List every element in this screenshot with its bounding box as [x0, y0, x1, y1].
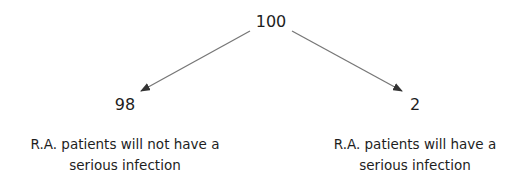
left-desc-line2: serious infection	[25, 155, 225, 176]
left-node-description: R.A. patients will not have a serious in…	[25, 134, 225, 176]
left-arrow	[141, 31, 250, 91]
left-desc-line1: R.A. patients will not have a	[25, 134, 225, 155]
right-node-value: 2	[395, 95, 435, 114]
right-desc-line2: serious infection	[315, 155, 515, 176]
right-arrow	[292, 31, 402, 91]
left-node-value: 98	[105, 95, 145, 114]
right-desc-line1: R.A. patients will have a	[315, 134, 515, 155]
right-node-description: R.A. patients will have a serious infect…	[315, 134, 515, 176]
root-node-value: 100	[251, 12, 291, 31]
